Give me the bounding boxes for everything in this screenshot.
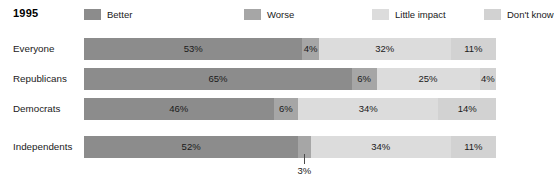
row-label-republicans: Republicans (13, 68, 67, 90)
row-label-democrats: Democrats (13, 98, 60, 120)
segment-value-label: 4% (481, 68, 495, 90)
chart-row: Republicans65%6%25%4% (0, 68, 510, 90)
bar-segment-worse[interactable]: 6% (274, 98, 299, 120)
segment-value-label: 11% (464, 38, 482, 60)
stacked-bar: 65%6%25%4% (84, 68, 496, 90)
stacked-bar: 46%6%34%14% (84, 98, 496, 120)
segment-value-label: 53% (184, 38, 203, 60)
chart-row: Democrats46%6%34%14% (0, 98, 510, 120)
bar-segment-don-t-know[interactable]: 14% (438, 98, 496, 120)
bar-segment-worse[interactable]: 4% (302, 38, 318, 60)
chart-row: Independents52%3%34%11% (0, 136, 510, 158)
segment-value-label: 4% (304, 38, 318, 60)
bar-segment-worse[interactable]: 3% (298, 136, 310, 158)
bar-segment-better[interactable]: 52% (84, 136, 298, 158)
segment-value-label: 34% (371, 136, 390, 158)
segment-value-label: 25% (419, 68, 438, 90)
bar-segment-worse[interactable]: 6% (352, 68, 377, 90)
segment-value-label: 6% (279, 98, 293, 120)
bar-segment-better[interactable]: 46% (84, 98, 274, 120)
segment-value-label: 11% (464, 136, 482, 158)
segment-value-label: 46% (169, 98, 188, 120)
bar-segment-little-impact[interactable]: 25% (377, 68, 480, 90)
bar-segment-don-t-know[interactable]: 4% (480, 68, 496, 90)
stacked-bar: 52%3%34%11% (84, 136, 496, 158)
bar-segment-don-t-know[interactable]: 11% (451, 38, 496, 60)
bar-segment-don-t-know[interactable]: 11% (451, 136, 496, 158)
segment-value-label: 32% (375, 38, 394, 60)
segment-value-label: 52% (182, 136, 201, 158)
legend-label: Don't know (507, 9, 554, 20)
bar-segment-better[interactable]: 65% (84, 68, 352, 90)
chart-row: Everyone53%4%32%11% (0, 38, 510, 60)
row-label-independents: Independents (13, 136, 72, 158)
bar-segment-little-impact[interactable]: 34% (311, 136, 451, 158)
bar-segment-little-impact[interactable]: 32% (319, 38, 451, 60)
segment-value-label: 34% (359, 98, 378, 120)
segment-value-label: 6% (357, 68, 371, 90)
bar-segment-little-impact[interactable]: 34% (298, 98, 438, 120)
segment-value-label: 65% (208, 68, 227, 90)
segment-value-label: 14% (458, 98, 477, 120)
bar-segment-better[interactable]: 53% (84, 38, 302, 60)
row-label-everyone: Everyone (13, 38, 54, 60)
stacked-bar: 53%4%32%11% (84, 38, 496, 60)
